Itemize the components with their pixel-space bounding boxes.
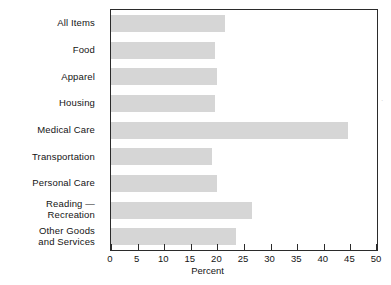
bar-chart: All ItemsFoodApparelHousingMedical CareT… bbox=[0, 0, 391, 285]
x-axis-tick bbox=[376, 244, 377, 250]
category-label: Other Goods and Services bbox=[38, 225, 95, 247]
x-axis-tick bbox=[350, 244, 351, 250]
bar bbox=[111, 148, 212, 165]
category-label: Reading — Recreation bbox=[0, 198, 95, 220]
x-axis-tick bbox=[271, 244, 272, 250]
bar bbox=[111, 122, 348, 139]
x-axis-tick-label: 10 bbox=[158, 253, 169, 264]
bar bbox=[111, 95, 215, 112]
x-axis-tick bbox=[244, 244, 245, 250]
x-axis-tick-label: 15 bbox=[185, 253, 196, 264]
x-axis-tick bbox=[111, 244, 112, 250]
x-axis-tick bbox=[324, 244, 325, 250]
plot-frame bbox=[110, 9, 378, 251]
category-label: Apparel bbox=[61, 70, 95, 81]
stray-speck: · bbox=[381, 98, 385, 103]
x-axis-tick-label: 35 bbox=[291, 253, 302, 264]
x-axis-tick-label: 40 bbox=[318, 253, 329, 264]
x-axis-tick-label: 45 bbox=[344, 253, 355, 264]
plot-area bbox=[111, 10, 377, 250]
category-label: Medical Care bbox=[37, 124, 95, 135]
x-axis-tick bbox=[217, 244, 218, 250]
bar bbox=[111, 15, 225, 32]
x-axis-tick bbox=[138, 244, 139, 250]
x-axis-tick-label: 20 bbox=[211, 253, 222, 264]
bar bbox=[111, 202, 252, 219]
x-axis-tick-label: 50 bbox=[371, 253, 382, 264]
category-label: Personal Care bbox=[32, 177, 95, 188]
bar bbox=[111, 228, 236, 245]
bar bbox=[111, 175, 217, 192]
x-axis-tick-label: 25 bbox=[238, 253, 249, 264]
x-axis-tick bbox=[191, 244, 192, 250]
bar bbox=[111, 42, 215, 59]
category-label: All Items bbox=[57, 17, 95, 28]
bar bbox=[111, 68, 217, 85]
x-axis-tick-label: 30 bbox=[264, 253, 275, 264]
x-axis-tick-label: 5 bbox=[134, 253, 139, 264]
category-label: Housing bbox=[59, 97, 95, 108]
x-axis-tick bbox=[297, 244, 298, 250]
x-axis-title: Percent bbox=[0, 265, 391, 276]
category-label-column: All ItemsFoodApparelHousingMedical CareT… bbox=[0, 8, 101, 248]
x-axis-tick-label: 0 bbox=[107, 253, 112, 264]
x-axis-title-text: Percent bbox=[167, 265, 224, 276]
category-label: Food bbox=[73, 44, 95, 55]
category-label: Transportation bbox=[32, 150, 95, 161]
x-axis-tick bbox=[164, 244, 165, 250]
